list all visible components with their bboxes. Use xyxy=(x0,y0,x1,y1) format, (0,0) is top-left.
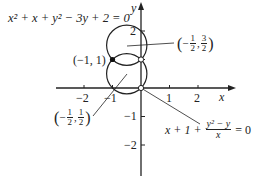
equation-fraction: y² − yx xyxy=(206,119,232,140)
x-tick-label-2: 2 xyxy=(194,92,200,104)
x-tick-label-1: 1 xyxy=(166,92,172,104)
y-axis-label: y xyxy=(131,2,136,14)
y-axis-arrow-icon xyxy=(138,2,144,10)
y-tick-label-2: 2 xyxy=(130,25,136,37)
top-curve-equation: x² + x + y² − 3y + 2 = 0 xyxy=(8,12,130,25)
y-tick-label-neg2: −2 xyxy=(124,139,137,151)
neg-sign: − xyxy=(182,37,188,49)
open-point-0-1 xyxy=(138,57,143,62)
x-tick-label-neg1: −1 xyxy=(104,92,117,104)
bottom-curve-equation: x + 1 + y² − yx = 0 xyxy=(165,119,251,140)
filled-point-label: (−1, 1) xyxy=(73,54,106,66)
y-fraction: 32 xyxy=(201,34,208,53)
x-axis-label: x xyxy=(219,91,224,103)
neg-sign: − xyxy=(59,111,65,123)
filled-point-neg1-1 xyxy=(110,57,115,62)
x-fraction: 12 xyxy=(67,108,74,127)
lower-center-label: (−12,12) xyxy=(54,108,91,127)
close-paren: ) xyxy=(208,35,213,52)
x-tick-label-neg2: −2 xyxy=(76,92,89,104)
close-paren: ) xyxy=(85,109,90,126)
leader-upper-center xyxy=(127,43,174,46)
y-fraction: 12 xyxy=(78,108,85,127)
x-axis-arrow-icon xyxy=(228,85,236,91)
y-tick-label-neg1: −1 xyxy=(124,110,137,122)
x-fraction: 12 xyxy=(190,34,197,53)
upper-center-label: (−12,32) xyxy=(177,34,214,53)
open-point-origin xyxy=(138,85,143,90)
